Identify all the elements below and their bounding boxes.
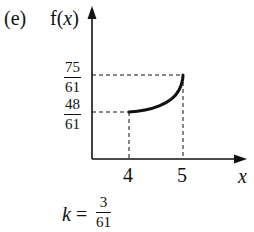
k-value: 3 61 <box>96 195 111 230</box>
x-axis-arrow-icon <box>234 155 247 164</box>
x-tick-4: 4 <box>123 165 133 185</box>
function-graph <box>0 0 254 232</box>
k-symbol: k <box>62 204 71 224</box>
y-axis-arrow-icon <box>88 6 97 19</box>
k-equals: = <box>76 204 87 224</box>
x-tick-5: 5 <box>177 165 187 185</box>
x-axis-label: x <box>238 166 247 186</box>
guide-lines <box>92 75 183 159</box>
y-tick-75-61: 75 61 <box>64 60 81 95</box>
function-curve <box>129 75 183 112</box>
y-tick-48-61: 48 61 <box>64 97 81 132</box>
